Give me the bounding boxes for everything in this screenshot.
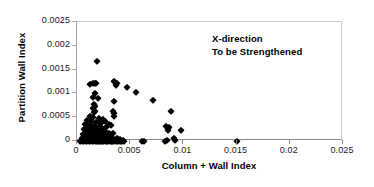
y-axis-title: Partition Wall Index	[16, 8, 27, 148]
x-axis-title: Column + Wall Index	[76, 160, 342, 171]
scatter-chart: Partition Wall Index 00.00050.0010.00150…	[0, 0, 374, 187]
annotation-line-2: To be Strengthened	[212, 45, 302, 58]
data-point	[133, 89, 139, 95]
data-point	[110, 113, 116, 119]
x-tick-label: 0.015	[206, 145, 266, 155]
data-point	[124, 84, 130, 90]
y-tick-label: 0	[65, 134, 70, 144]
y-tick-label: 0.0005	[42, 110, 70, 120]
chart-annotation: X-direction To be Strengthened	[212, 32, 302, 58]
data-point	[111, 98, 117, 104]
y-tick-label: 0.0025	[42, 15, 70, 25]
x-tick-mark	[182, 140, 183, 144]
data-point	[94, 94, 100, 100]
x-tick-mark	[129, 140, 130, 144]
x-tick-label: 0	[46, 145, 106, 155]
x-tick-mark	[76, 140, 77, 144]
y-tick-label: 0.001	[47, 86, 70, 96]
data-point	[178, 126, 184, 132]
y-tick-label: 0.0015	[42, 63, 70, 73]
data-point	[93, 58, 99, 64]
annotation-line-1: X-direction	[212, 32, 302, 45]
x-tick-mark	[342, 140, 343, 144]
x-tick-label: 0.02	[259, 145, 319, 155]
plot-area: X-direction To be Strengthened	[76, 21, 342, 140]
x-tick-label: 0.005	[99, 145, 159, 155]
y-tick-label: 0.002	[47, 39, 70, 49]
x-tick-mark	[236, 140, 237, 144]
data-point	[168, 108, 174, 114]
x-tick-label: 0.025	[312, 145, 372, 155]
data-point	[150, 97, 156, 103]
x-tick-label: 0.01	[152, 145, 212, 155]
x-tick-mark	[289, 140, 290, 144]
